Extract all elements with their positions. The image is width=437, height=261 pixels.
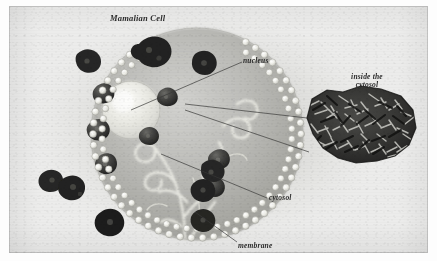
- membrane-bead: [292, 164, 299, 171]
- membrane-bead: [261, 210, 268, 217]
- membrane-bead: [232, 227, 239, 234]
- membrane-bead: [154, 217, 161, 224]
- membrane-bead: [242, 222, 249, 229]
- membrane-bead: [111, 193, 118, 200]
- membrane-bead: [283, 77, 290, 84]
- membrane-bead: [99, 87, 106, 94]
- membrane-bead: [289, 126, 296, 133]
- membrane-bead: [92, 108, 99, 115]
- membrane-protein: [192, 51, 217, 75]
- membrane-bead: [145, 212, 152, 219]
- membrane-bead: [90, 142, 97, 149]
- membrane-bead: [288, 174, 295, 181]
- membrane-bead: [95, 164, 102, 171]
- membrane-bead: [163, 221, 170, 228]
- membrane-bead: [252, 217, 259, 224]
- membrane-bead: [288, 87, 295, 94]
- membrane-bead: [269, 202, 276, 209]
- membrane-bead: [173, 223, 180, 230]
- membrane-bead: [243, 212, 250, 219]
- membrane-bead: [110, 175, 117, 182]
- membrane-bead: [285, 156, 292, 163]
- membrane-bead: [278, 175, 285, 182]
- membrane-bead: [188, 234, 195, 241]
- membrane-bead: [266, 69, 273, 76]
- membrane-bead: [136, 206, 143, 213]
- membrane-bead: [128, 200, 135, 207]
- figure-title: Mamalian Cell: [110, 14, 165, 24]
- scanned-plate: Mamalian Cell nucleus inside the cytosol…: [9, 6, 428, 253]
- membrane-bead: [224, 221, 231, 228]
- cell-illustration: [9, 6, 428, 253]
- membrane-bead: [135, 217, 142, 224]
- membrane-bead: [95, 97, 102, 104]
- membrane-bead: [126, 210, 133, 217]
- membrane-bead: [99, 126, 106, 133]
- membrane-bead: [115, 184, 122, 191]
- membrane-bead: [199, 234, 206, 241]
- membrane-bead: [251, 206, 258, 213]
- membrane-bead: [292, 97, 299, 104]
- membrane-bead: [118, 59, 125, 66]
- membrane-bead: [105, 96, 112, 103]
- membrane-bead: [297, 119, 304, 126]
- membrane-bead: [111, 68, 118, 75]
- label-membrane: membrane: [238, 242, 273, 250]
- label-nucleus: nucleus: [243, 57, 269, 65]
- membrane-bead: [289, 136, 296, 143]
- membrane-bead: [102, 156, 109, 163]
- membrane-bead: [269, 59, 276, 66]
- membrane-bead: [104, 184, 111, 191]
- membrane-bead: [128, 62, 135, 69]
- membrane-bead: [121, 69, 128, 76]
- membrane-bead: [90, 131, 97, 138]
- membrane-bead: [110, 86, 117, 93]
- membrane-bead: [285, 105, 292, 112]
- membrane-bead: [234, 217, 241, 224]
- membrane-bead: [177, 233, 184, 240]
- membrane-bead: [295, 153, 302, 160]
- membrane-bead: [183, 225, 190, 232]
- membrane-bead: [115, 77, 122, 84]
- membrane-bead: [90, 119, 97, 126]
- membrane-bead: [297, 142, 304, 149]
- membrane-bead: [100, 115, 107, 122]
- membrane-bead: [210, 233, 217, 240]
- membrane-bead: [102, 105, 109, 112]
- membrane-bead: [252, 44, 259, 51]
- membrane-bead: [243, 49, 250, 56]
- membrane-bead: [282, 96, 289, 103]
- membrane-bead: [298, 131, 305, 138]
- membrane-bead: [278, 86, 285, 93]
- membrane-bead: [105, 166, 112, 173]
- membrane-bead: [92, 153, 99, 160]
- membrane-bead: [121, 192, 128, 199]
- figure-canvas: Mamalian Cell nucleus inside the cytosol…: [0, 0, 437, 261]
- label-cytosol: cytosol: [269, 194, 292, 202]
- membrane-bead: [99, 136, 106, 143]
- membrane-bead: [272, 77, 279, 84]
- membrane-bead: [272, 184, 279, 191]
- membrane-bead: [276, 68, 283, 75]
- membrane-bead: [155, 227, 162, 234]
- membrane-bead: [283, 184, 290, 191]
- membrane-bead: [287, 146, 294, 153]
- membrane-bead: [259, 200, 266, 207]
- membrane-bead: [282, 166, 289, 173]
- label-inside-the-cytosol: inside the cytosol: [336, 73, 398, 90]
- membrane-bead: [295, 108, 302, 115]
- membrane-bead: [166, 231, 173, 238]
- membrane-bead: [100, 146, 107, 153]
- membrane-bead: [104, 77, 111, 84]
- membrane-bead: [242, 39, 249, 46]
- membrane-bead: [99, 174, 106, 181]
- membrane-bead: [145, 222, 152, 229]
- membrane-bead: [118, 202, 125, 209]
